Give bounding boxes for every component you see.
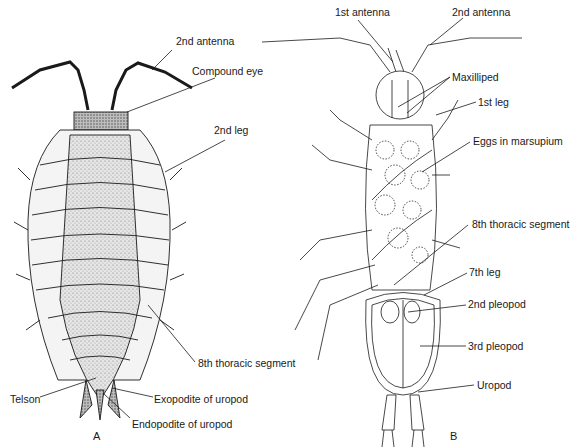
label-2nd-antenna-a: 2nd antenna	[176, 35, 234, 47]
label-eggs-in-marsupium: Eggs in marsupium	[473, 135, 563, 147]
label-1st-antenna: 1st antenna	[335, 6, 390, 18]
label-compound-eye: Compound eye	[192, 65, 263, 77]
label-2nd-antenna-b: 2nd antenna	[452, 6, 510, 18]
label-maxilliped: Maxilliped	[452, 71, 499, 83]
label-3rd-pleopod: 3rd pleopod	[468, 340, 523, 352]
label-2nd-leg: 2nd leg	[214, 124, 248, 136]
label-8th-thoracic-segment-b: 8th thoracic segment	[472, 218, 569, 230]
label-2nd-pleopod: 2nd pleopod	[468, 298, 526, 310]
panel-label-b: B	[450, 430, 457, 442]
label-endopodite-of-uropod: Endopodite of uropod	[132, 418, 232, 430]
label-exopodite-of-uropod: Exopodite of uropod	[154, 393, 248, 405]
label-1st-leg: 1st leg	[478, 96, 509, 108]
label-8th-thoracic-segment-a: 8th thoracic segment	[198, 357, 295, 369]
label-uropod: Uropod	[477, 379, 511, 391]
dorsal-view-drawing	[12, 62, 192, 420]
label-7th-leg: 7th leg	[469, 266, 501, 278]
label-telson: Telson	[10, 393, 40, 405]
panel-label-a: A	[93, 430, 100, 442]
